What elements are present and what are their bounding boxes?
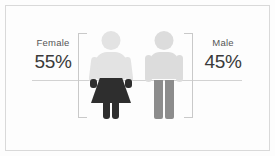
female-label-block: Female 55% xyxy=(26,38,80,71)
male-label-block: Male 45% xyxy=(196,38,250,71)
male-torso xyxy=(149,52,179,79)
female-category-label: Female xyxy=(26,38,80,48)
male-leg-left xyxy=(154,80,163,119)
male-percent-value: 45% xyxy=(196,52,250,71)
male-figure-icon xyxy=(137,31,191,119)
female-hand-left xyxy=(90,79,97,88)
female-leg-right xyxy=(112,99,119,119)
gender-split-infographic: Female 55% Male 45% xyxy=(0,0,275,156)
male-arm-right xyxy=(176,55,183,82)
female-torso xyxy=(95,52,127,80)
male-arm-left xyxy=(145,55,152,82)
female-head xyxy=(102,31,121,50)
female-hand-right xyxy=(125,79,132,88)
female-figure-icon xyxy=(84,31,138,119)
female-leg-left xyxy=(103,99,110,119)
male-head xyxy=(155,31,174,50)
female-percent-value: 55% xyxy=(26,52,80,71)
male-leg-right xyxy=(165,80,174,119)
male-category-label: Male xyxy=(196,38,250,48)
